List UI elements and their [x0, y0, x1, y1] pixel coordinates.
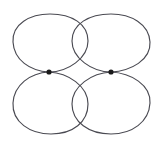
right-vertex-dot: [108, 69, 113, 74]
diagram-canvas: [0, 0, 162, 146]
four-loop-graph-figure: [0, 0, 162, 146]
left-vertex-dot: [46, 69, 51, 74]
